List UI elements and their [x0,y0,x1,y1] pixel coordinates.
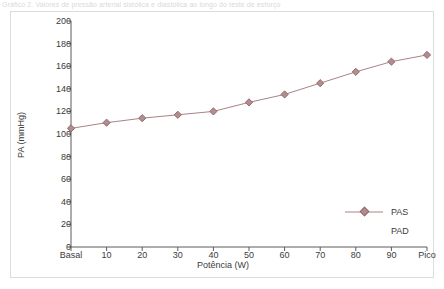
plot-area: PA (mmHg) Potência (W) 02040608010012014… [11,12,435,279]
y-tick-label: 40 [31,197,71,207]
data-point-PAS [281,91,288,98]
figure-caption: Gráfico 2. Valores de pressão arterial s… [0,0,444,9]
y-tick-label: 20 [31,219,71,229]
x-axis-title: Potência (W) [11,260,435,270]
legend-label: PAD [385,226,409,236]
x-tick-label: Pico [404,250,444,260]
data-point-PAS [139,115,146,122]
data-point-PAS [245,99,252,106]
y-axis-title: PA (mmHg) [16,75,26,195]
chart-frame: PA (mmHg) Potência (W) 02040608010012014… [10,11,434,278]
y-tick-label: 60 [31,174,71,184]
y-tick-label: 100 [31,129,71,139]
y-tick-label: 180 [31,39,71,49]
legend-item-PAD[interactable]: PAD [343,221,435,240]
data-point-PAS [174,111,181,118]
data-point-PAS [317,80,324,87]
data-point-PAS [423,51,430,58]
y-tick-label: 120 [31,106,71,116]
data-point-PAS [352,68,359,75]
legend-symbol-empty [343,224,385,238]
data-point-PAS [388,58,395,65]
y-tick-label: 200 [31,16,71,26]
legend-label: PAS [385,207,408,217]
y-tick-label: 160 [31,61,71,71]
data-point-PAS [103,119,110,126]
legend-diamond-icon [343,205,385,219]
series-line-PAS [71,55,427,128]
legend-marker [359,207,369,217]
y-tick-label: 140 [31,84,71,94]
chart-legend: PASPAD [343,202,435,240]
legend-item-PAS[interactable]: PAS [343,202,435,221]
y-tick-label: 80 [31,152,71,162]
data-point-PAS [210,108,217,115]
